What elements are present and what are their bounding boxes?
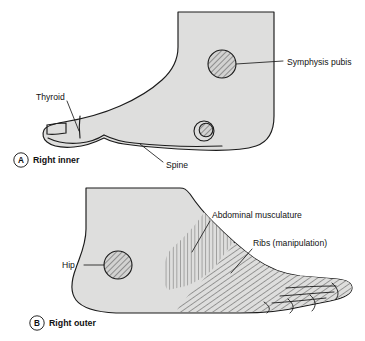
zone-spine[interactable] <box>199 123 213 137</box>
panel-a-letter: A <box>18 156 24 165</box>
label-abdominal-musculature: Abdominal musculature <box>212 210 302 220</box>
label-hip: Hip <box>62 260 75 270</box>
panel-b-right-outer: Hip Abdominal musculature Ribs (manipula… <box>30 188 352 330</box>
zone-hip[interactable] <box>104 251 132 279</box>
foot-outline-a <box>43 12 274 150</box>
figure-canvas: Symphysis pubis Thyroid Spine A Right in… <box>0 0 365 341</box>
label-spine: Spine <box>166 160 188 170</box>
label-symphysis-pubis: Symphysis pubis <box>287 57 351 67</box>
reflexology-figure: Symphysis pubis Thyroid Spine A Right in… <box>0 0 365 341</box>
panel-b-letter: B <box>34 319 40 328</box>
label-thyroid: Thyroid <box>36 92 65 102</box>
panel-a-caption: Right inner <box>33 155 80 165</box>
zone-symphysis-pubis[interactable] <box>208 50 236 78</box>
label-ribs-manipulation: Ribs (manipulation) <box>253 238 327 248</box>
panel-a-right-inner: Symphysis pubis Thyroid Spine A Right in… <box>14 12 352 170</box>
panel-b-caption: Right outer <box>49 318 96 328</box>
